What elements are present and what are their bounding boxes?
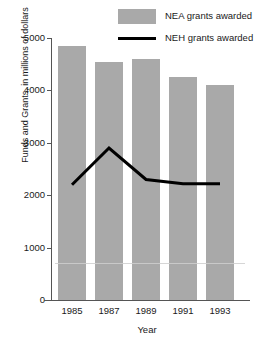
x-tick-label: 1993	[197, 306, 243, 316]
x-axis-title: Year	[44, 324, 250, 335]
neh-polyline	[72, 148, 220, 185]
line-series-neh	[0, 0, 259, 346]
plot-area: Funds and Grants, in millions of dollars…	[0, 0, 259, 346]
chart-figure: NEA grants awarded NEH grants awarded Fu…	[0, 0, 259, 346]
